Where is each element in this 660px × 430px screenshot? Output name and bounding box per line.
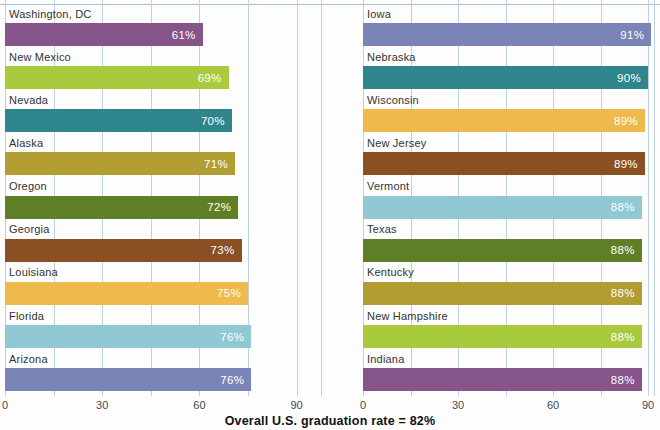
bar-value-label: 88%: [611, 244, 642, 256]
bar-value-label: 61%: [172, 29, 203, 41]
category-label-nebraska: Nebraska: [367, 51, 416, 63]
bar-washington-dc: 61%: [5, 23, 203, 46]
x-axis-tick-90: 90: [642, 399, 654, 411]
x-axis-tick-0: 0: [360, 399, 366, 411]
gridline: [297, 0, 298, 396]
bar-kentucky: 88%: [363, 282, 642, 305]
bar-louisiana: 75%: [5, 282, 248, 305]
bar-indiana: 88%: [363, 368, 642, 391]
category-label-vermont: Vermont: [367, 180, 409, 192]
bar-value-label: 88%: [611, 374, 642, 386]
bar-value-label: 72%: [207, 201, 238, 213]
category-label-iowa: Iowa: [367, 8, 391, 20]
bar-oregon: 72%: [5, 196, 238, 219]
bar-florida: 76%: [5, 325, 251, 348]
category-label-louisiana: Louisiana: [9, 266, 58, 278]
panel-right-border: [321, 0, 322, 396]
bar-value-label: 69%: [198, 72, 229, 84]
bar-value-label: 89%: [614, 115, 645, 127]
bar-georgia: 73%: [5, 239, 242, 262]
bar-new-hampshire: 88%: [363, 325, 642, 348]
caption-text: Overall U.S. graduation rate =: [225, 414, 410, 428]
category-label-nevada: Nevada: [9, 94, 48, 106]
category-label-new-mexico: New Mexico: [9, 51, 71, 63]
bar-new-mexico: 69%: [5, 66, 229, 89]
bar-vermont: 88%: [363, 196, 642, 219]
chart-caption: Overall U.S. graduation rate = 82%: [0, 414, 660, 428]
x-axis-tick-30: 30: [96, 399, 108, 411]
bar-value-label: 90%: [617, 72, 648, 84]
x-axis-tick-60: 60: [193, 399, 205, 411]
x-axis-tick-90: 90: [290, 399, 302, 411]
bar-nebraska: 90%: [363, 66, 648, 89]
category-label-indiana: Indiana: [367, 353, 405, 365]
category-label-washington-dc: Washington, DC: [9, 8, 91, 20]
x-axis-tick-0: 0: [2, 399, 8, 411]
category-label-arizona: Arizona: [9, 353, 48, 365]
bar-value-label: 76%: [220, 374, 251, 386]
bar-value-label: 75%: [217, 287, 248, 299]
category-label-alaska: Alaska: [9, 137, 43, 149]
caption-value: 82%: [410, 414, 436, 428]
bar-value-label: 88%: [611, 201, 642, 213]
bar-nevada: 70%: [5, 109, 232, 132]
x-axis-tick-60: 60: [547, 399, 559, 411]
bar-wisconsin: 89%: [363, 109, 645, 132]
bar-value-label: 91%: [620, 29, 651, 41]
category-label-georgia: Georgia: [9, 223, 50, 235]
category-label-florida: Florida: [9, 310, 44, 322]
bar-value-label: 89%: [614, 158, 645, 170]
bar-value-label: 88%: [611, 331, 642, 343]
category-label-texas: Texas: [367, 223, 397, 235]
bar-iowa: 91%: [363, 23, 651, 46]
category-label-new-hampshire: New Hampshire: [367, 310, 448, 322]
bar-alaska: 71%: [5, 152, 235, 175]
category-label-kentucky: Kentucky: [367, 266, 414, 278]
chart-panel-lowest-states: Washington, DC61%New Mexico69%Nevada70%A…: [5, 0, 322, 396]
panel-right-border: [654, 0, 655, 396]
bar-value-label: 70%: [201, 115, 232, 127]
category-label-oregon: Oregon: [9, 180, 47, 192]
category-label-new-jersey: New Jersey: [367, 137, 426, 149]
gridline: [648, 0, 649, 396]
chart-panel-highest-states: Iowa91%Nebraska90%Wisconsin89%New Jersey…: [363, 0, 655, 396]
bar-value-label: 76%: [220, 331, 251, 343]
bar-new-jersey: 89%: [363, 152, 645, 175]
bar-value-label: 88%: [611, 287, 642, 299]
graduation-rate-bar-chart: Washington, DC61%New Mexico69%Nevada70%A…: [0, 0, 660, 430]
bar-value-label: 73%: [211, 244, 242, 256]
bar-texas: 88%: [363, 239, 642, 262]
x-axis-tick-30: 30: [452, 399, 464, 411]
bar-arizona: 76%: [5, 368, 251, 391]
bar-value-label: 71%: [204, 158, 235, 170]
category-label-wisconsin: Wisconsin: [367, 94, 419, 106]
